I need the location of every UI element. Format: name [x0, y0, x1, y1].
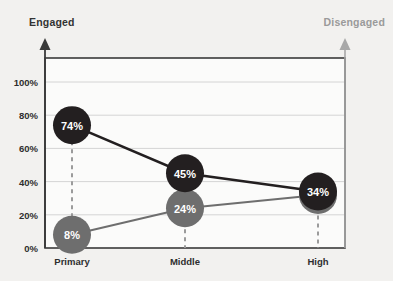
x-axis-category-label: High [307, 256, 328, 267]
data-point-value-label: 8% [64, 229, 80, 241]
x-axis-category-label: Middle [170, 256, 200, 267]
data-point-value-label: 74% [61, 120, 83, 132]
chart-figure: Engaged Disengaged 0%20%40%60%80%100% 8%… [0, 0, 393, 281]
data-point-value-label: 45% [174, 168, 196, 180]
left-axis-arrow-icon [40, 38, 51, 50]
chart-plot-area: 8%24%32%74%45%34% [0, 0, 393, 281]
x-axis-category-label: Primary [54, 256, 89, 267]
data-point-value-label: 24% [174, 203, 196, 215]
right-axis-arrow-icon [340, 38, 351, 50]
data-point-value-label: 34% [307, 186, 329, 198]
